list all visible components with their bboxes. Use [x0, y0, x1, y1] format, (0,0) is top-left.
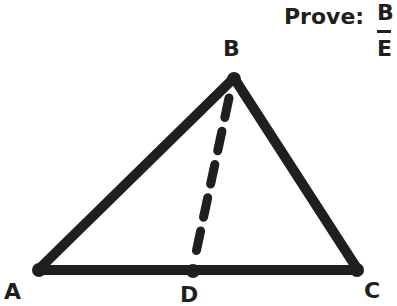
vertex-b-dot — [227, 72, 241, 86]
vertex-label-a: A — [4, 281, 21, 303]
prove-label: Prove: — [284, 6, 364, 28]
fraction-denominator: E — [377, 38, 392, 60]
vertex-a-dot — [32, 263, 46, 277]
segment-ab — [38, 78, 234, 270]
vertex-c-dot — [350, 263, 364, 277]
fraction-numerator: B — [377, 2, 394, 24]
segment-bd-dashed — [194, 98, 229, 262]
vertex-d-dot — [186, 264, 200, 278]
vertex-label-c: C — [364, 280, 380, 302]
segment-bc — [234, 78, 358, 270]
fraction-bar — [377, 30, 391, 33]
vertex-label-b: B — [223, 38, 240, 60]
vertex-label-d: D — [180, 284, 198, 306]
